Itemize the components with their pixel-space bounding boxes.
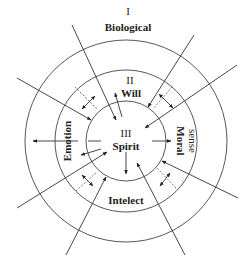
segment-boundaries: [75, 87, 176, 191]
outer-layer-label: Biological: [105, 21, 151, 33]
three-layer-circle-diagram: I Biological II Will III Spirit Intelect…: [0, 0, 248, 265]
will-label: Will: [121, 87, 141, 99]
sense-label: sense: [187, 129, 199, 153]
spirit-label: Spirit: [113, 140, 140, 152]
emotion-label: Emotion: [61, 121, 73, 161]
outer-layer-numeral: I: [126, 5, 130, 17]
intelect-label: Intelect: [108, 194, 144, 206]
moral-label: Moral: [175, 126, 187, 155]
center-numeral: III: [121, 127, 132, 139]
middle-layer-numeral: II: [126, 74, 134, 86]
internal-outward-arrows: [33, 93, 171, 174]
